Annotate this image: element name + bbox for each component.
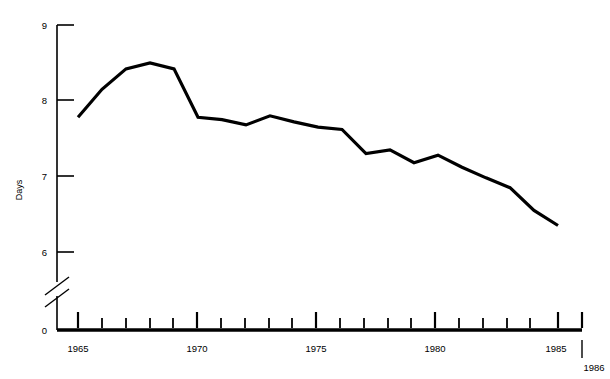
x-tick-label-1980: 1980 — [424, 343, 445, 354]
y-tick-label-8: 8 — [42, 95, 47, 106]
chart-container: 9 8 7 6 0 Days — [0, 0, 610, 379]
y-tick-label-6: 6 — [42, 247, 47, 258]
data-line-days — [78, 63, 558, 226]
y-tick-label-7: 7 — [42, 171, 47, 182]
x-tick-label-1970: 1970 — [186, 343, 207, 354]
line-chart: 9 8 7 6 0 Days — [0, 0, 610, 379]
x-tick-label-1986: 1986 — [583, 362, 604, 373]
x-tick-label-1985: 1985 — [545, 343, 566, 354]
x-tick-label-1965: 1965 — [67, 343, 88, 354]
y-tick-label-9: 9 — [42, 20, 47, 31]
y-tick-label-0: 0 — [42, 325, 47, 336]
x-tick-marks — [78, 312, 582, 328]
y-tick-marks — [57, 25, 74, 252]
x-tick-label-1975: 1975 — [305, 343, 326, 354]
y-axis-title: Days — [14, 179, 24, 200]
